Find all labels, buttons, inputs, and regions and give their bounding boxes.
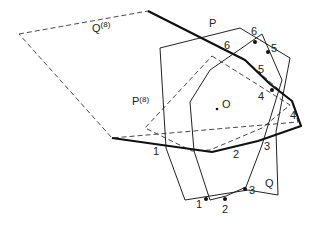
intersection-3-point: [243, 187, 247, 191]
vertex-number-label: 6: [224, 39, 230, 51]
vertex-number-label: 2: [233, 148, 239, 160]
label-q: Q: [265, 177, 274, 189]
label-q8: Q(8): [92, 20, 111, 34]
bold-boundary-path: [112, 11, 301, 152]
vertex-number-label: 1: [153, 145, 159, 157]
vertex-number-label: 1: [196, 198, 202, 210]
vertex-number-label: 3: [249, 184, 255, 196]
intersection-2-point: [223, 197, 227, 201]
vertex-number-label: 4: [258, 90, 264, 102]
vertex-number-label: 5: [258, 63, 264, 75]
vertex-number-label: 5: [271, 42, 277, 54]
intersection-6-point: [253, 40, 257, 44]
intersection-4-point: [270, 88, 274, 92]
vertex-number-labels: 656544321321: [153, 25, 296, 215]
label-p8: P(8): [132, 95, 149, 107]
label-origin: O: [222, 98, 231, 110]
intersection-5-point: [266, 50, 270, 54]
label-p: P: [209, 17, 216, 29]
vertex-number-label: 2: [222, 203, 228, 215]
origin-O-point: [216, 108, 219, 111]
vertex-number-label: 6: [251, 25, 257, 37]
vertex-number-label: 3: [264, 140, 270, 152]
intersection-1-point: [204, 197, 208, 201]
vertex-number-label: 4: [290, 109, 296, 121]
polygon-sum-diagram: Q(8) P(8) P Q O 656544321321: [0, 0, 313, 225]
polygon-q: [190, 34, 282, 200]
